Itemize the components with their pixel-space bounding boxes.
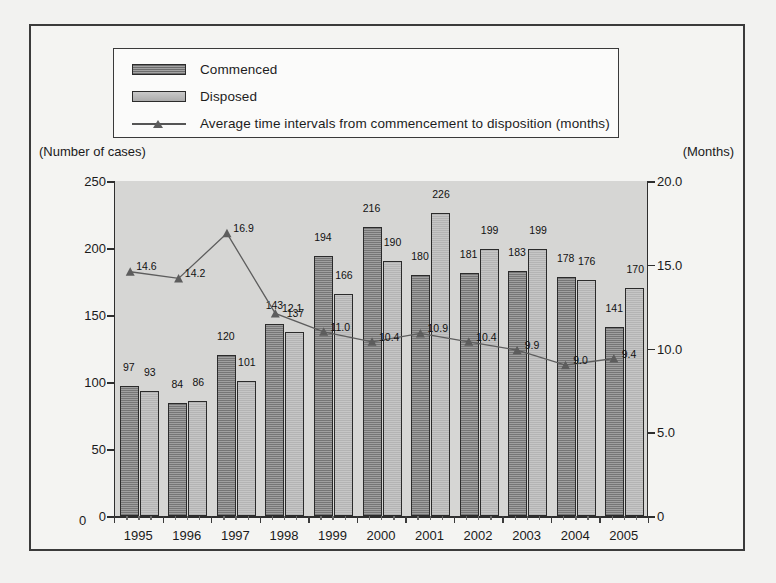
right-tick-label: 10.0 [657, 341, 682, 356]
right-tick-label: 5.0 [657, 425, 675, 440]
legend-label-average-time: Average time intervals from commencement… [200, 116, 610, 131]
line-value-label: 9.0 [573, 354, 588, 366]
line-value-label: 9.4 [622, 348, 637, 360]
x-tick-major [599, 516, 600, 523]
left-tick-mark [107, 181, 115, 183]
right-tick-mark [647, 432, 655, 434]
x-axis-zero-label: 0 [79, 513, 86, 528]
x-tick-minor [515, 516, 516, 520]
right-tick-mark [647, 265, 655, 267]
x-tick-minor [272, 516, 273, 520]
x-tick-minor [417, 516, 418, 520]
line-triangle-marker-icon [132, 118, 186, 129]
left-tick-mark [107, 382, 115, 384]
legend-label-commenced: Commenced [200, 62, 277, 77]
x-tick-minor [199, 516, 200, 520]
x-tick-minor [381, 516, 382, 520]
average-time-line [115, 181, 647, 516]
left-tick-label: 250 [84, 174, 106, 189]
x-axis-label: 2001 [415, 528, 444, 543]
x-tick-major [211, 516, 212, 523]
x-tick-minor [284, 516, 285, 520]
x-tick-major [114, 516, 115, 523]
right-tick-label: 15.0 [657, 257, 682, 272]
x-tick-minor [430, 516, 431, 520]
line-value-label: 16.9 [233, 222, 253, 234]
x-tick-minor [126, 516, 127, 520]
left-tick-label: 200 [84, 241, 106, 256]
line-value-label: 10.4 [379, 331, 399, 343]
x-axis-label: 2005 [609, 528, 638, 543]
chart-legend: Commenced Disposed Average time interval… [113, 48, 619, 138]
left-tick-label: 0 [99, 509, 106, 524]
x-tick-minor [563, 516, 564, 520]
x-tick-major [357, 516, 358, 523]
x-tick-major [163, 516, 164, 523]
x-tick-major [405, 516, 406, 523]
legend-label-disposed: Disposed [200, 89, 257, 104]
x-tick-minor [369, 516, 370, 520]
x-axis-label: 1995 [124, 528, 153, 543]
right-tick-label: 0 [657, 509, 664, 524]
x-axis-label: 1998 [269, 528, 298, 543]
x-tick-minor [612, 516, 613, 520]
x-tick-minor [587, 516, 588, 520]
x-tick-minor [478, 516, 479, 520]
x-tick-minor [539, 516, 540, 520]
x-tick-minor [624, 516, 625, 520]
x-tick-minor [187, 516, 188, 520]
legend-item-average-time: Average time intervals from commencement… [132, 110, 618, 137]
line-value-label: 12.1 [282, 302, 302, 314]
x-tick-minor [175, 516, 176, 520]
x-axis-label: 1997 [221, 528, 250, 543]
left-tick-mark [107, 449, 115, 451]
bar-swatch-hatched-icon [132, 64, 186, 75]
x-tick-minor [320, 516, 321, 520]
x-tick-minor [138, 516, 139, 520]
left-tick-label: 100 [84, 375, 106, 390]
x-tick-major [648, 516, 649, 523]
x-tick-major [502, 516, 503, 523]
left-tick-label: 150 [84, 308, 106, 323]
x-axis-label: 2000 [367, 528, 396, 543]
x-tick-major [551, 516, 552, 523]
left-axis-caption: (Number of cases) [39, 144, 146, 159]
line-value-label: 14.6 [136, 260, 156, 272]
line-value-label: 10.4 [476, 331, 496, 343]
x-axis-label: 2002 [464, 528, 493, 543]
plot-area: 050100150200250 05.010.015.020.0 9793848… [114, 181, 648, 516]
x-axis-label: 1999 [318, 528, 347, 543]
x-tick-major [260, 516, 261, 523]
x-tick-minor [332, 516, 333, 520]
x-axis-label: 2004 [561, 528, 590, 543]
x-tick-minor [466, 516, 467, 520]
x-tick-minor [393, 516, 394, 520]
left-tick-mark [107, 315, 115, 317]
x-tick-minor [442, 516, 443, 520]
line-value-label: 11.0 [330, 321, 350, 333]
x-tick-minor [248, 516, 249, 520]
right-axis-caption: (Months) [683, 144, 734, 159]
x-tick-minor [636, 516, 637, 520]
x-tick-major [454, 516, 455, 523]
x-tick-minor [223, 516, 224, 520]
bar-swatch-light-icon [132, 91, 186, 102]
line-value-label: 14.2 [185, 267, 205, 279]
right-tick-mark [647, 349, 655, 351]
legend-item-commenced: Commenced [132, 56, 618, 83]
x-tick-minor [490, 516, 491, 520]
right-tick-mark [647, 181, 655, 183]
line-value-label: 10.9 [428, 322, 448, 334]
x-tick-major [308, 516, 309, 523]
x-tick-minor [235, 516, 236, 520]
right-tick-label: 20.0 [657, 174, 682, 189]
x-tick-minor [150, 516, 151, 520]
x-axis-label: 1996 [172, 528, 201, 543]
x-tick-minor [575, 516, 576, 520]
x-tick-minor [527, 516, 528, 520]
left-tick-label: 50 [92, 442, 106, 457]
x-tick-minor [296, 516, 297, 520]
x-axis-label: 2003 [512, 528, 541, 543]
chart-frame: Commenced Disposed Average time interval… [29, 24, 745, 551]
line-value-label: 9.9 [525, 339, 540, 351]
